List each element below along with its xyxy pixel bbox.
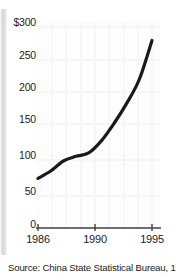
chart-canvas [0, 0, 176, 250]
chart-figure: $300 250 200 150 100 50 0 1986 1990 1995… [0, 0, 176, 280]
y-tick-label-200: 200 [6, 81, 36, 93]
y-tick-label-0: 0 [6, 218, 36, 230]
plot-background [36, 22, 160, 228]
y-tick-label-50: 50 [6, 185, 36, 197]
y-tick-label-150: 150 [6, 113, 36, 125]
line-chart: $300 250 200 150 100 50 0 1986 1990 1995 [0, 0, 176, 250]
x-tick-label-1986: 1986 [17, 233, 59, 245]
y-tick-label-100: 100 [6, 149, 36, 161]
source-note: Source: China State Statistical Bureau, … [8, 262, 176, 273]
y-tick-label-250: 250 [6, 49, 36, 61]
x-tick-label-1990: 1990 [74, 233, 116, 245]
y-tick-label-300: $300 [6, 16, 36, 28]
x-tick-label-1995: 1995 [131, 233, 173, 245]
